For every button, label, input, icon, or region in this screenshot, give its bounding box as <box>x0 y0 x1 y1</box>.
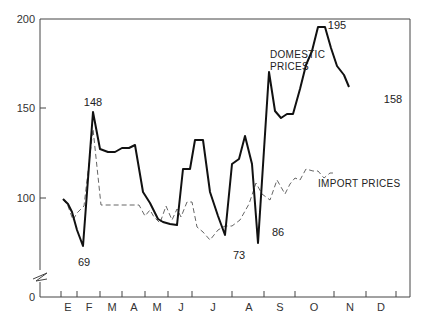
domestic-prices-label-line2: PRICES <box>270 61 309 72</box>
y-tick-100: 100 <box>17 192 35 204</box>
series-labels: DOMESTIC PRICES IMPORT PRICES <box>270 49 400 189</box>
month-label: J <box>178 301 184 313</box>
import-prices-label: IMPORT PRICES <box>318 178 400 189</box>
price-line-chart: 200 150 100 0 E F M A M J J A S O N D <box>0 0 433 324</box>
domestic-prices-label: DOMESTIC <box>270 49 325 60</box>
month-label: E <box>64 301 71 313</box>
axis-break-icon <box>33 273 47 281</box>
x-axis-ticks <box>61 291 396 297</box>
month-label: A <box>130 301 138 313</box>
x-axis-month-labels: E F M A M J J A S O N D <box>64 301 385 313</box>
month-label: A <box>245 301 253 313</box>
annotation-148: 148 <box>84 96 102 108</box>
month-label: M <box>152 301 161 313</box>
annotation-73: 73 <box>233 249 245 261</box>
month-label: J <box>210 301 216 313</box>
annotation-86: 86 <box>272 226 284 238</box>
month-label: N <box>346 301 354 313</box>
month-label: O <box>310 301 319 313</box>
annotation-195: 195 <box>328 19 346 31</box>
data-annotations: 148 69 73 86 195 158 <box>78 19 402 268</box>
import-prices-line <box>63 129 335 240</box>
month-label: D <box>377 301 385 313</box>
month-label: M <box>107 301 116 313</box>
y-tick-0: 0 <box>29 291 35 303</box>
y-axis-ticks: 200 150 100 0 <box>17 13 46 303</box>
month-label: S <box>276 301 283 313</box>
annotation-158: 158 <box>384 93 402 105</box>
y-tick-200: 200 <box>17 13 35 25</box>
month-label: F <box>86 301 93 313</box>
annotation-69: 69 <box>78 256 90 268</box>
y-tick-150: 150 <box>17 102 35 114</box>
